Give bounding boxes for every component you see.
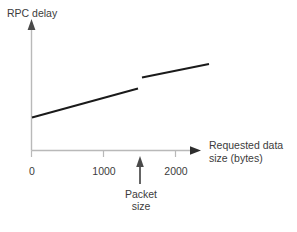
x-axis-label-line-2: size (bytes) — [209, 152, 263, 164]
x-axis-label-line-1: Requested data — [209, 139, 283, 151]
x-axis-arrowhead — [190, 146, 201, 154]
packet-size-annotation-line-2: size — [110, 200, 172, 212]
y-axis-arrowhead — [28, 19, 36, 30]
rpc-delay-chart-figure: RPC delay Requested data size (bytes) 0 … — [0, 0, 297, 232]
x-tick-label-2000: 2000 — [157, 165, 195, 177]
packet-size-arrow-head — [136, 156, 144, 167]
x-tick-label-1000: 1000 — [85, 165, 123, 177]
data-line-segment-2 — [142, 64, 209, 78]
data-line-segment-1 — [32, 89, 138, 118]
x-tick-label-0: 0 — [21, 165, 43, 177]
x-axis-label: Requested data size (bytes) — [209, 139, 295, 164]
packet-size-annotation-line-1: Packet — [110, 188, 172, 200]
y-axis-label: RPC delay — [7, 7, 57, 19]
packet-size-annotation: Packet size — [110, 188, 172, 213]
